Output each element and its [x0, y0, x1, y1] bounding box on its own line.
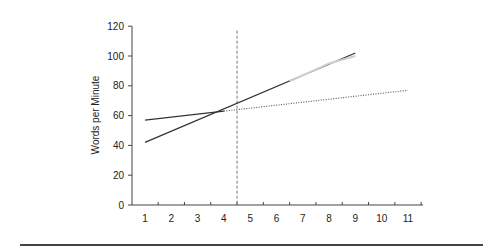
x-tick-label: 4 — [221, 213, 227, 224]
series-lines — [145, 53, 408, 142]
x-tick-label: 11 — [403, 213, 414, 224]
x-tick-label: 1 — [142, 213, 148, 224]
x-tick-label: 7 — [300, 213, 306, 224]
x-tick-label: 2 — [169, 213, 175, 224]
x-tick-label: 6 — [274, 213, 280, 224]
x-tick-label: 10 — [376, 213, 388, 224]
line-chart: 020406080100120 1234567891011 Words per … — [0, 0, 483, 247]
x-tick-label: 3 — [195, 213, 201, 224]
y-tick-label: 100 — [107, 51, 124, 62]
x-tick-label: 8 — [326, 213, 332, 224]
series-faint-overlay — [290, 56, 356, 81]
y-tick-label: 40 — [113, 140, 125, 151]
x-tick-label: 9 — [353, 213, 359, 224]
y-tick-label: 120 — [107, 21, 124, 32]
y-tick-label: 20 — [113, 170, 125, 181]
bottom-divider — [20, 244, 483, 246]
y-axis-title: Words per Minute — [90, 75, 101, 154]
series-flat-trend-projection-dotted — [224, 90, 408, 111]
x-tick-label: 5 — [247, 213, 253, 224]
series-flat-trend-solid — [145, 111, 224, 120]
y-tick-label: 60 — [113, 110, 125, 121]
y-tick-label: 80 — [113, 80, 125, 91]
y-tick-label: 0 — [118, 200, 124, 211]
y-axis-ticks: 020406080100120 — [107, 21, 132, 211]
